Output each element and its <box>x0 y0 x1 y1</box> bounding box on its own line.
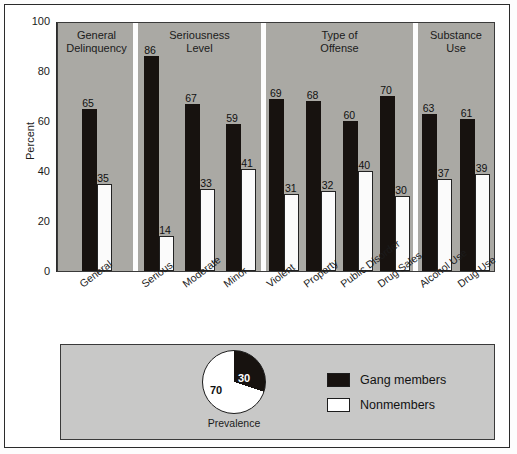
pie-caption: Prevalence <box>196 417 272 429</box>
panel-title-4: Substance Use <box>418 29 494 55</box>
value-label-gang-minor: 59 <box>222 112 243 124</box>
legend-swatch-gang-members <box>327 373 350 387</box>
value-label-gang-drug-use: 61 <box>456 107 477 119</box>
bar-nonmember-violent <box>284 194 299 272</box>
pie-value-nonmember: 70 <box>210 384 222 396</box>
value-label-gang-property: 68 <box>302 89 323 101</box>
bar-gang-minor <box>226 124 241 272</box>
value-label-nonmember-general: 35 <box>93 172 114 184</box>
value-label-nonmember-moderate: 33 <box>196 177 217 189</box>
y-tick-label-80: 80 <box>16 65 50 77</box>
value-label-nonmember-drug-sales: 30 <box>391 184 412 196</box>
value-label-gang-serious: 86 <box>140 44 161 56</box>
panel-divider-3 <box>413 23 418 271</box>
y-tick-label-40: 40 <box>16 165 50 177</box>
value-label-nonmember-drug-use: 39 <box>471 162 492 174</box>
bar-nonmember-general <box>97 184 112 272</box>
bar-gang-public-disorder <box>343 121 358 271</box>
value-label-gang-public-disorder: 60 <box>339 109 360 121</box>
y-tick-label-20: 20 <box>16 215 50 227</box>
y-tick-label-100: 100 <box>16 15 50 27</box>
bar-chart-plot-area: General DelinquencySeriousness LevelType… <box>57 22 495 272</box>
prevalence-pie-chart: 30 70 Prevalence <box>196 350 272 429</box>
pie-value-gang: 30 <box>238 372 250 384</box>
value-label-nonmember-alcohol-use: 37 <box>433 167 454 179</box>
bar-gang-alcohol-use <box>422 114 437 272</box>
legend-label-nonmembers: Nonmembers <box>360 398 435 412</box>
panel-divider-1 <box>133 23 138 271</box>
legend-label-gang-members: Gang members <box>360 373 446 387</box>
value-label-gang-drug-sales: 70 <box>376 84 397 96</box>
value-label-gang-alcohol-use: 63 <box>418 102 439 114</box>
y-tick-label-0: 0 <box>16 265 50 277</box>
bar-nonmember-minor <box>241 169 256 272</box>
panel-divider-2 <box>261 23 266 271</box>
legend-and-inset-panel: 30 70 Prevalence Gang members Nonmembers <box>60 344 495 440</box>
legend-item-gang-members: Gang members <box>327 373 446 387</box>
y-tick-label-60: 60 <box>16 115 50 127</box>
pie-slices <box>202 350 266 414</box>
figure-root: Percent 100806040200 General Delinquency… <box>0 0 517 454</box>
panel-title-3: Type of Offense <box>266 29 413 55</box>
value-label-gang-moderate: 67 <box>181 92 202 104</box>
bar-gang-general <box>82 109 97 272</box>
value-label-gang-violent: 69 <box>265 87 286 99</box>
value-label-nonmember-minor: 41 <box>237 157 258 169</box>
value-label-nonmember-serious: 14 <box>155 224 176 236</box>
panel-title-1: General Delinquency <box>60 29 133 55</box>
value-label-nonmember-public-disorder: 40 <box>354 159 375 171</box>
bar-gang-serious <box>144 56 159 271</box>
value-label-nonmember-property: 32 <box>317 179 338 191</box>
value-label-gang-general: 65 <box>78 97 99 109</box>
legend-swatch-nonmembers <box>327 398 350 412</box>
legend-item-nonmembers: Nonmembers <box>327 398 435 412</box>
value-label-nonmember-violent: 31 <box>280 182 301 194</box>
